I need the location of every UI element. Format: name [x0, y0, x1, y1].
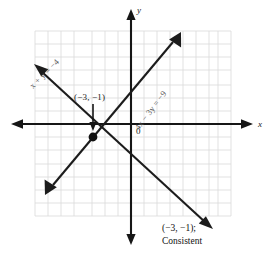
line-4x-minus-3y-equals-neg9	[45, 32, 182, 195]
y-axis-label: y	[137, 6, 141, 15]
intersection-dot-icon	[89, 133, 98, 142]
graph-figure: y x 0 (−3, −1) x + y = −4 4x − 3y = −9 (…	[0, 0, 273, 255]
axis-arrow-right-icon	[241, 119, 253, 129]
solution-answer-block: (−3, −1); Consistent	[162, 222, 202, 248]
axis-arrow-left-icon	[11, 119, 23, 129]
intersection-point-label: (−3, −1)	[74, 93, 105, 102]
axis-arrow-down-icon	[126, 234, 135, 245]
x-axis-label: x	[258, 120, 262, 129]
solution-coordinates: (−3, −1);	[162, 222, 202, 235]
solution-classification: Consistent	[162, 235, 202, 248]
axis-arrow-up-icon	[126, 9, 135, 20]
